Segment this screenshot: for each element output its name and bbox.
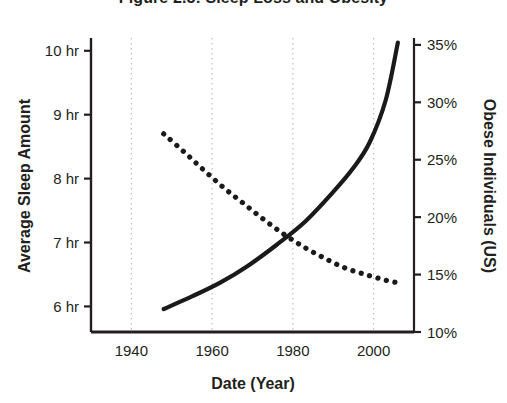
figure-container: Figure 2.5: Sleep Loss and Obesity 6 hr7…	[0, 0, 507, 403]
left-tick-label-10: 10 hr	[45, 42, 79, 59]
plot-frame	[91, 38, 414, 332]
left-tick-label-7: 7 hr	[53, 234, 79, 251]
right-tick-label-10: 10%	[427, 324, 457, 341]
left-tick-label-9: 9 hr	[53, 106, 79, 123]
x-axis-title: Date (Year)	[211, 375, 295, 392]
x-tick-label-2000: 2000	[357, 342, 390, 359]
left-axis-ticks: 6 hr7 hr8 hr9 hr10 hr	[45, 42, 91, 315]
right-tick-label-30: 30%	[427, 94, 457, 111]
left-tick-label-6: 6 hr	[53, 298, 79, 315]
y2-axis-title: Obese Individuals (US)	[481, 99, 498, 273]
x-tick-label-1980: 1980	[276, 342, 309, 359]
chart-svg: 6 hr7 hr8 hr9 hr10 hr 10%15%20%25%30%35%…	[0, 0, 507, 403]
right-tick-label-25: 25%	[427, 151, 457, 168]
left-tick-label-8: 8 hr	[53, 170, 79, 187]
x-tick-label-1960: 1960	[195, 342, 228, 359]
right-tick-label-20: 20%	[427, 209, 457, 226]
series-line-obesity	[164, 43, 398, 309]
series-layer	[164, 43, 398, 309]
right-axis-ticks: 10%15%20%25%30%35%	[414, 36, 457, 340]
x-tick-label-1940: 1940	[115, 342, 148, 359]
right-tick-label-35: 35%	[427, 36, 457, 53]
right-tick-label-15: 15%	[427, 266, 457, 283]
x-axis-ticks: 1940196019802000	[115, 342, 391, 359]
y-axis-title: Average Sleep Amount	[16, 98, 33, 273]
